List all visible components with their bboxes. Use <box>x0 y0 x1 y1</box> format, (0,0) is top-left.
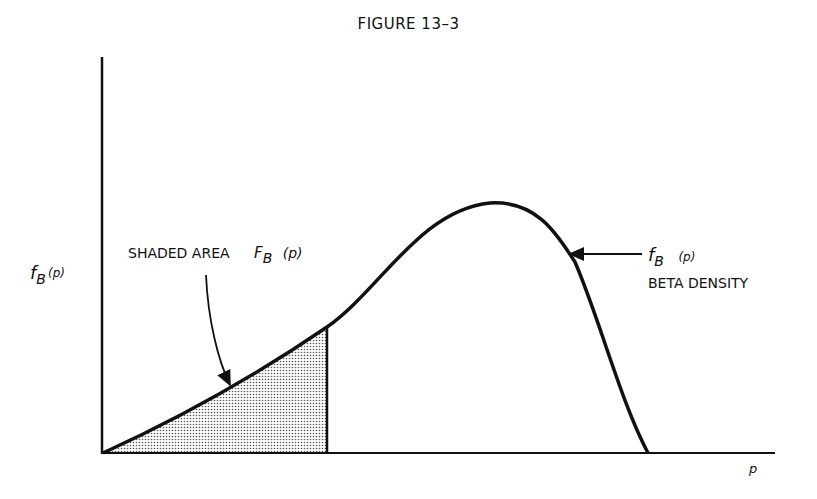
curve-label: fB (p) <box>648 244 695 265</box>
y-axis-label: fB(p) <box>30 262 65 283</box>
shaded-area-arrow <box>206 275 230 385</box>
curve-caption: BETA DENSITY <box>648 275 748 291</box>
shaded-area-label: SHADED AREA FB (p) <box>128 244 303 262</box>
shaded-area <box>103 327 327 453</box>
x-axis-label: p <box>749 461 757 476</box>
